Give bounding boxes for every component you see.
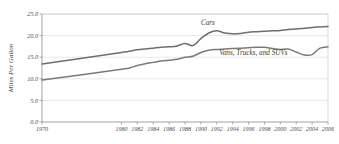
chart-container: 0.05.010.015.020.025.0 19701980198219841… bbox=[0, 0, 339, 144]
x-tick-label: 2004 bbox=[306, 126, 318, 132]
x-tick-label: 1986 bbox=[163, 126, 175, 132]
y-tick-label: 20.0 bbox=[27, 32, 39, 39]
x-tick-label: 2006 bbox=[322, 126, 334, 132]
y-axis-title: Miles Per Gallon bbox=[7, 43, 15, 93]
x-tick-label: 1990 bbox=[195, 126, 207, 132]
x-tick-label: 1984 bbox=[147, 126, 159, 132]
x-axis-ticks: 1970198019821984198619881990199219941996… bbox=[36, 122, 334, 132]
x-tick-label: 1988 bbox=[179, 126, 191, 132]
y-tick-label: 15.0 bbox=[27, 53, 39, 60]
y-axis-ticks: 0.05.010.015.020.025.0 bbox=[27, 10, 42, 125]
x-tick-label: 1980 bbox=[115, 126, 127, 132]
x-tick-label: 2002 bbox=[290, 126, 302, 132]
x-tick-label: 1998 bbox=[258, 126, 270, 132]
mpg-line-chart: 0.05.010.015.020.025.0 19701980198219841… bbox=[0, 0, 339, 144]
x-tick-label: 1992 bbox=[211, 126, 223, 132]
y-tick-label: 10.0 bbox=[27, 75, 39, 82]
x-tick-label: 1970 bbox=[36, 126, 48, 132]
y-tick-label: 5.0 bbox=[30, 97, 39, 104]
y-tick-label: 25.0 bbox=[27, 10, 39, 17]
x-tick-label: 1982 bbox=[131, 126, 143, 132]
series-label-vans-trucks-and-suvs: Vans, Trucks, and SUVs bbox=[219, 49, 288, 57]
series-line-cars bbox=[42, 27, 328, 65]
series-label-cars: Cars bbox=[201, 19, 215, 27]
x-tick-label: 2000 bbox=[274, 126, 286, 132]
x-tick-label: 1994 bbox=[227, 126, 239, 132]
x-tick-label: 1996 bbox=[243, 126, 255, 132]
y-tick-label: 0.0 bbox=[30, 118, 39, 125]
series-annotations: CarsVans, Trucks, and SUVs bbox=[201, 19, 288, 56]
